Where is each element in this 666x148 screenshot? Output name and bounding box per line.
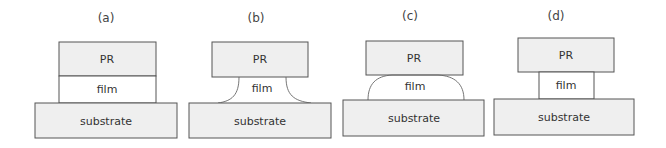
pr-label: PR — [100, 53, 115, 66]
panel-label: (a) — [98, 11, 115, 25]
substrate-label: substrate — [80, 115, 132, 128]
pr-label: PR — [407, 52, 422, 65]
substrate-label: substrate — [234, 115, 286, 128]
panel-label: (b) — [248, 11, 265, 25]
film-label: film — [556, 79, 577, 92]
panel-d: (d) PR film substrate — [494, 9, 634, 135]
pr-label: PR — [559, 49, 574, 62]
film-label: film — [405, 80, 426, 93]
panel-label: (c) — [402, 9, 418, 23]
panel-b: (b) PR film substrate — [189, 11, 331, 138]
panel-label: (d) — [548, 9, 565, 23]
pr-label: PR — [253, 53, 268, 66]
panel-c: (c) PR film substrate — [343, 9, 484, 136]
film-label: film — [97, 83, 118, 96]
film-left-edge — [218, 77, 239, 103]
substrate-label: substrate — [388, 112, 440, 125]
panel-a: (a) PR film substrate — [35, 11, 177, 138]
substrate-label: substrate — [538, 111, 590, 124]
etch-profile-diagram: (a) PR film substrate (b) PR film substr… — [0, 0, 666, 148]
film-label: film — [252, 82, 273, 95]
film-right-edge — [286, 77, 311, 103]
